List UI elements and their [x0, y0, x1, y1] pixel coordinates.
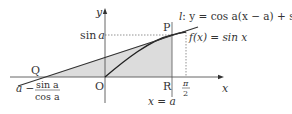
- y-axis-label: y: [95, 6, 103, 19]
- q-coordinate-numerator: sin a: [36, 79, 59, 90]
- y-axis-arrow-icon: [103, 8, 107, 14]
- q-coordinate-denominator: cos a: [35, 91, 60, 102]
- sin-a-label: sina: [80, 29, 105, 42]
- x-equals-a-label: x = a: [148, 95, 176, 107]
- function-graph: y x O sina P Q R l: y = cos a(x − a) + s…: [0, 0, 292, 114]
- x-axis-arrow-icon: [218, 75, 224, 79]
- pi-half-numerator: π: [182, 79, 189, 88]
- function-label: f(x) = sin x: [188, 31, 247, 43]
- point-q-label: Q: [31, 64, 40, 77]
- pi-half-denominator: 2: [183, 89, 188, 98]
- q-coordinate-prefix: a −: [16, 82, 34, 94]
- x-axis-label: x: [222, 82, 229, 95]
- point-p-label: P: [163, 21, 171, 34]
- origin-label: O: [95, 80, 104, 93]
- diagram-canvas: y x O sina P Q R l: y = cos a(x − a) + s…: [0, 0, 292, 114]
- tangent-equation-label: l: y = cos a(x − a) + sin a: [179, 10, 292, 22]
- point-r-label: R: [163, 80, 172, 93]
